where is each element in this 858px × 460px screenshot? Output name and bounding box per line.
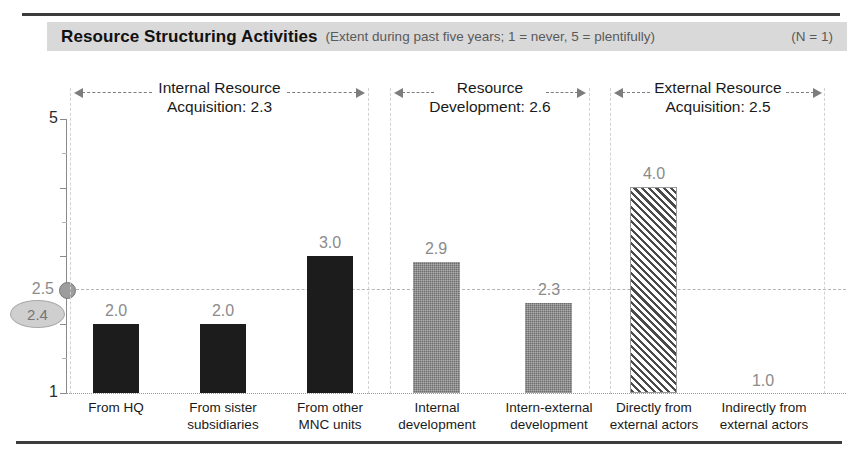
group-title-3-line2: Acquisition: 2.5 <box>612 97 824 116</box>
group-divider-right <box>824 88 825 394</box>
x-label-line1: Intern-external <box>490 400 608 417</box>
x-label-line2: MNC units <box>271 417 389 434</box>
group-arrow-right-1 <box>287 88 365 97</box>
arrow-shaft <box>287 92 357 93</box>
y-tick-minor-4-5 <box>62 153 67 154</box>
arrow-head-right-icon <box>356 88 365 98</box>
x-label-line1: From HQ <box>57 400 175 417</box>
y-axis-label-bottom: 1 <box>14 383 58 401</box>
y-tick-2 <box>60 324 67 325</box>
bar-value-from-sister-subsidiaries: 2.0 <box>193 302 253 320</box>
group-title-2-line2: Development: 2.6 <box>392 97 588 116</box>
bar-from-other-mnc-units[interactable] <box>307 256 353 393</box>
chart-plot-area: 5 2.5 1 2.4 Internal Resource Acquisitio… <box>0 0 858 460</box>
x-label-line2: development <box>490 417 608 434</box>
group-arrow-right-3 <box>786 88 822 97</box>
x-label-internal-development: Internal development <box>378 400 496 433</box>
x-label-line2: subsidiaries <box>164 417 282 434</box>
group-arrow-right-2 <box>546 88 586 97</box>
y-tick-5 <box>60 119 67 120</box>
x-label-line1: Directly from <box>595 400 713 417</box>
x-label-from-hq: From HQ <box>57 400 175 417</box>
reference-marker-dot <box>59 282 76 299</box>
arrow-head-right-icon <box>813 88 822 98</box>
bar-value-internal-development: 2.9 <box>406 240 466 258</box>
group-divider-left-1 <box>70 88 71 394</box>
y-axis-label-top: 5 <box>14 109 58 127</box>
bar-value-indirectly-from-external-actors: 1.0 <box>733 372 793 390</box>
overall-mean-badge: 2.4 <box>10 300 65 328</box>
x-label-line2: development <box>378 417 496 434</box>
group-title-3: External Resource Acquisition: 2.5 <box>612 78 824 116</box>
x-label-line2: external actors <box>705 417 823 434</box>
bar-intern-external-development[interactable] <box>525 303 572 393</box>
group-header-resource-development: Resource Development: 2.6 <box>392 78 588 120</box>
x-label-line2: external actors <box>595 417 713 434</box>
group-divider-1 <box>368 88 369 394</box>
bar-value-from-other-mnc-units: 3.0 <box>300 234 360 252</box>
group-header-external-resource-acquisition: External Resource Acquisition: 2.5 <box>612 78 824 120</box>
arrow-shaft <box>786 92 814 93</box>
bar-directly-from-external-actors[interactable] <box>630 187 677 393</box>
x-label-line1: Indirectly from <box>705 400 823 417</box>
bar-value-directly-from-external-actors: 4.0 <box>624 165 684 183</box>
group-title-1-line2: Acquisition: 2.3 <box>72 97 367 116</box>
x-label-directly-from-external-actors: Directly from external actors <box>595 400 713 433</box>
bar-value-intern-external-development: 2.3 <box>519 281 579 299</box>
x-label-from-sister-subsidiaries: From sister subsidiaries <box>164 400 282 433</box>
group-header-internal-resource-acquisition: Internal Resource Acquisition: 2.3 <box>72 78 367 120</box>
group-divider-3 <box>589 88 590 394</box>
x-label-line1: Internal <box>378 400 496 417</box>
bar-from-sister-subsidiaries[interactable] <box>200 324 246 393</box>
y-tick-3 <box>60 256 67 257</box>
arrow-head-right-icon <box>577 88 586 98</box>
x-label-line1: From other <box>271 400 389 417</box>
y-tick-4 <box>60 188 67 189</box>
y-tick-minor-1-5 <box>62 358 67 359</box>
arrow-shaft <box>546 92 578 93</box>
x-label-from-other-mnc-units: From other MNC units <box>271 400 389 433</box>
bar-internal-development[interactable] <box>413 262 460 393</box>
group-title-1: Internal Resource Acquisition: 2.3 <box>72 78 367 116</box>
group-title-2: Resource Development: 2.6 <box>392 78 588 116</box>
group-divider-4 <box>610 88 611 394</box>
y-axis-label-mid: 2.5 <box>8 280 54 298</box>
bar-from-hq[interactable] <box>93 324 139 393</box>
x-label-line1: From sister <box>164 400 282 417</box>
group-divider-2 <box>390 88 391 394</box>
x-label-indirectly-from-external-actors: Indirectly from external actors <box>705 400 823 433</box>
x-axis-line <box>66 393 846 394</box>
x-label-intern-external-development: Intern-external development <box>490 400 608 433</box>
bar-value-from-hq: 2.0 <box>86 302 146 320</box>
y-tick-minor-3-5 <box>62 222 67 223</box>
